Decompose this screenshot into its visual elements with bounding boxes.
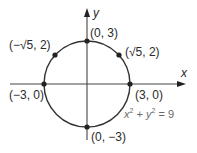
circle-diagram: y x (0, 3) (√5, 2) (−√5, 2) (−3, 0) (3, … (0, 0, 197, 153)
point-label-3-0: (3, 0) (135, 89, 163, 101)
point-label-0-3: (0, 3) (90, 27, 118, 39)
equation-equals: = 9 (155, 108, 174, 120)
point-0-neg3 (84, 124, 89, 129)
circle-equation: x2 + y2 = 9 (124, 107, 174, 120)
point-label-neg-sqrt5-2: (−√5, 2) (9, 39, 51, 51)
equation-plus: + (133, 108, 146, 120)
point-label-neg3-0: (−3, 0) (9, 89, 44, 101)
point-label-sqrt5-2: (√5, 2) (125, 46, 160, 58)
point-3-0 (127, 81, 132, 86)
x-axis-arrow-icon (177, 81, 186, 87)
point-sqrt5-2 (116, 52, 121, 57)
point-neg-sqrt5-2 (52, 52, 57, 57)
y-axis-arrow-icon (84, 8, 90, 17)
point-0-3 (84, 38, 89, 43)
y-axis-label: y (93, 7, 99, 19)
point-label-0-neg3: (0, −3) (91, 131, 126, 143)
x-axis-label: x (181, 67, 187, 79)
point-neg3-0 (41, 81, 46, 86)
